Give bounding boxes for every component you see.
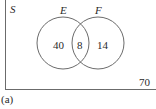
universe-label: S xyxy=(10,3,16,15)
figure-caption: (a) xyxy=(1,93,13,105)
f-only-count: 14 xyxy=(97,39,109,51)
intersection-count: 8 xyxy=(77,39,83,51)
outside-count: 70 xyxy=(139,76,151,88)
venn-diagram: S E F 40 8 14 70 xyxy=(0,0,156,109)
set-f-label: F xyxy=(94,4,102,16)
set-e-label: E xyxy=(59,4,67,16)
e-only-count: 40 xyxy=(53,39,65,51)
